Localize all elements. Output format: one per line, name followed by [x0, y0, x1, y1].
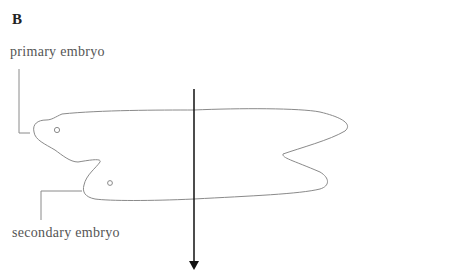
embryo-diagram: [0, 0, 455, 276]
primary-leader-line: [19, 69, 30, 133]
arrowhead-icon: [189, 261, 199, 270]
secondary-leader-line: [41, 191, 82, 220]
embryo-outline: [34, 109, 348, 201]
primary-eye-spot: [54, 127, 59, 132]
secondary-eye-spot: [108, 181, 113, 186]
